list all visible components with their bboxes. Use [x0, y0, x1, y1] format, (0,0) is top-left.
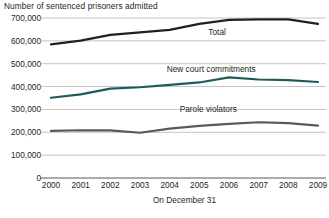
y-axis-tick-labels: 0100,000200,000300,000400,000500,000600,… [0, 18, 41, 178]
chart-title: Number of sentenced prisoners admitted [4, 1, 158, 11]
y-tick-label: 300,000 [11, 104, 41, 114]
x-tick-label: 2000 [42, 180, 60, 190]
plot-area [44, 18, 325, 178]
data-series-line [51, 122, 318, 133]
x-tick-label: 2009 [309, 180, 327, 190]
y-tick-label: 500,000 [11, 59, 41, 69]
x-tick-label: 2001 [71, 180, 89, 190]
x-axis-label: On December 31 [44, 195, 325, 205]
data-lines [51, 19, 318, 132]
data-series-line [51, 77, 318, 97]
y-tick-label: 200,000 [11, 127, 41, 137]
chart-container: Number of sentenced prisoners admitted 0… [0, 0, 329, 218]
x-tick-label: 2002 [101, 180, 119, 190]
series-label: Parole violators [180, 104, 237, 114]
x-tick-label: 2007 [249, 180, 267, 190]
series-label: New court commitments [167, 64, 256, 74]
x-tick-label: 2008 [279, 180, 297, 190]
y-tick-label: 400,000 [11, 82, 41, 92]
series-label: Total [208, 27, 226, 37]
x-tick-label: 2003 [131, 180, 149, 190]
gridlines [40, 18, 326, 178]
x-tick-label: 2006 [220, 180, 238, 190]
y-tick-label: 100,000 [11, 150, 41, 160]
chart-svg [44, 18, 325, 178]
x-axis-tick-labels: 2000200120022003200420052006200720082009 [44, 180, 325, 194]
x-tick-label: 2004 [160, 180, 178, 190]
x-tick-label: 2005 [190, 180, 208, 190]
y-tick-label: 600,000 [11, 36, 41, 46]
y-tick-label: 700,000 [11, 13, 41, 23]
